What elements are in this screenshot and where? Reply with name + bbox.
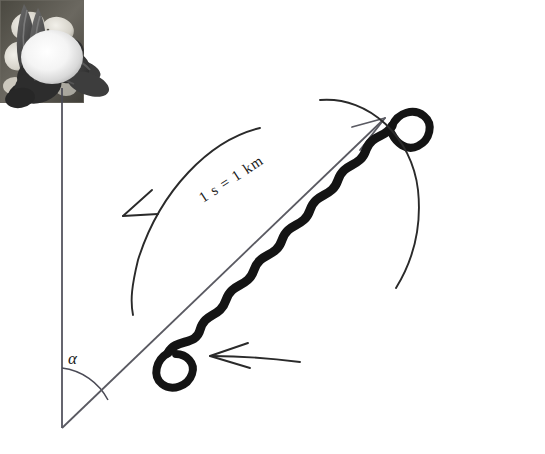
angle-label: α bbox=[68, 349, 77, 369]
return-loop-right bbox=[320, 100, 419, 288]
angle-arc bbox=[62, 368, 108, 400]
waggle-top-loop bbox=[392, 112, 430, 148]
sun-symbol bbox=[21, 30, 83, 84]
return-loop-left-arrowhead bbox=[123, 190, 158, 216]
waggle-bottom-loop bbox=[156, 353, 193, 388]
flight-direction-line bbox=[62, 120, 383, 428]
diagram-lineart bbox=[0, 0, 545, 454]
waggle-dance-figure: α 1 s = 1 km bbox=[0, 0, 545, 454]
